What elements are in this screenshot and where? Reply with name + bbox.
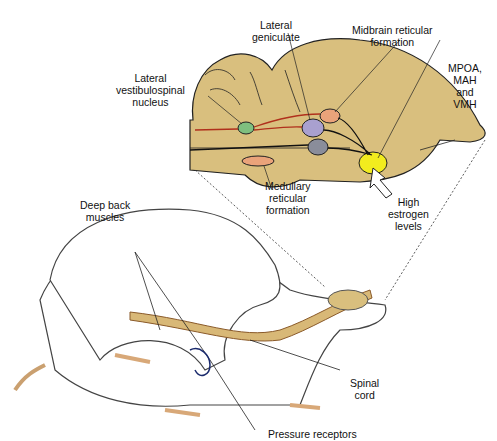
brain-inset [190, 33, 485, 198]
medullary-reticular-nucleus [242, 156, 274, 166]
label-spinal-cord: Spinal cord [350, 377, 379, 401]
midbrain-reticular-nucleus [320, 109, 340, 123]
rats [15, 209, 386, 430]
lateral-geniculate-nucleus [302, 119, 324, 137]
rat-brain [328, 290, 368, 310]
gray-nucleus [308, 139, 328, 155]
label-mpoa-mah-vmh: MPOA, MAH and VMH [448, 62, 482, 110]
label-medullary-reticular: Medullary reticular formation [265, 180, 311, 216]
tail [15, 365, 45, 390]
label-high-estrogen: High estrogen levels [388, 196, 429, 232]
label-midbrain-reticular: Midbrain reticular formation [352, 24, 433, 48]
vestibulospinal-nucleus [238, 122, 254, 134]
label-deep-back-muscles: Deep back muscles [80, 199, 130, 223]
label-lateral-vestibulospinal: Lateral vestibulospinal nucleus [116, 72, 185, 108]
label-pressure-receptors: Pressure receptors [268, 428, 357, 440]
label-lateral-geniculate: Lateral geniculate [252, 19, 300, 43]
